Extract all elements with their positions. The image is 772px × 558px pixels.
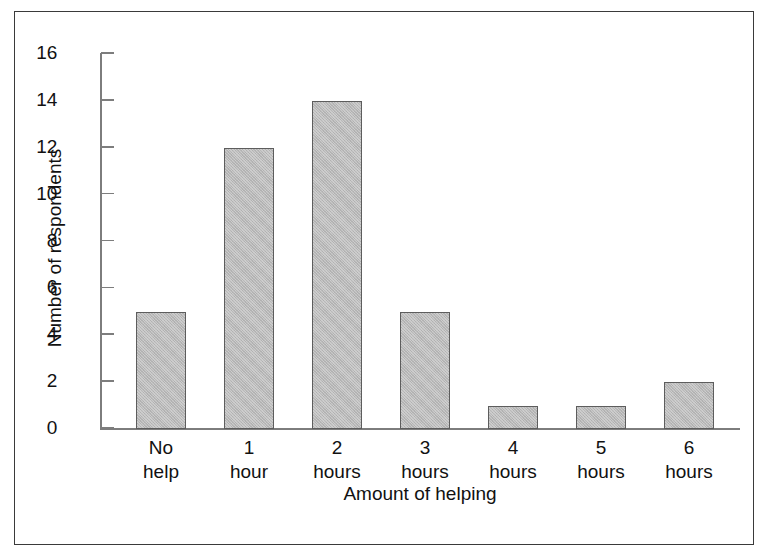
bar bbox=[664, 382, 714, 429]
figure-frame: 1614121086420 Number of respondents Nohe… bbox=[14, 11, 754, 545]
bar bbox=[312, 101, 362, 429]
x-tick-label-line2: hours bbox=[634, 460, 744, 484]
bar bbox=[224, 148, 274, 429]
bar-chart-plot-area: 1614121086420 Number of respondents Nohe… bbox=[15, 12, 755, 546]
bars-layer bbox=[15, 12, 755, 429]
x-axis-title: Amount of helping bbox=[100, 483, 740, 505]
bar bbox=[576, 406, 626, 429]
x-axis-tick-label: 6hours bbox=[634, 436, 744, 484]
bar bbox=[136, 312, 186, 429]
x-tick-label-line1: 6 bbox=[634, 436, 744, 460]
bar bbox=[488, 406, 538, 429]
bar bbox=[400, 312, 450, 429]
